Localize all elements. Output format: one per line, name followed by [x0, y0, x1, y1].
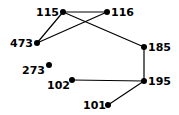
network-graph: 115116473185273102195101: [0, 0, 179, 115]
node-115: [60, 9, 66, 15]
graph-labels: 115116473185273102195101: [10, 6, 171, 112]
node-label-273: 273: [22, 64, 45, 77]
node-185: [141, 44, 147, 50]
node-label-102: 102: [47, 79, 70, 92]
node-label-115: 115: [36, 6, 59, 19]
node-label-101: 101: [83, 99, 106, 112]
edge-102-195: [72, 80, 144, 81]
node-273: [46, 62, 52, 68]
node-473: [34, 40, 40, 46]
node-label-116: 116: [111, 6, 134, 19]
edge-195-101: [108, 81, 144, 105]
node-label-195: 195: [148, 75, 171, 88]
node-label-473: 473: [10, 37, 33, 50]
node-label-185: 185: [148, 41, 171, 54]
node-116: [104, 9, 110, 15]
node-195: [141, 78, 147, 84]
